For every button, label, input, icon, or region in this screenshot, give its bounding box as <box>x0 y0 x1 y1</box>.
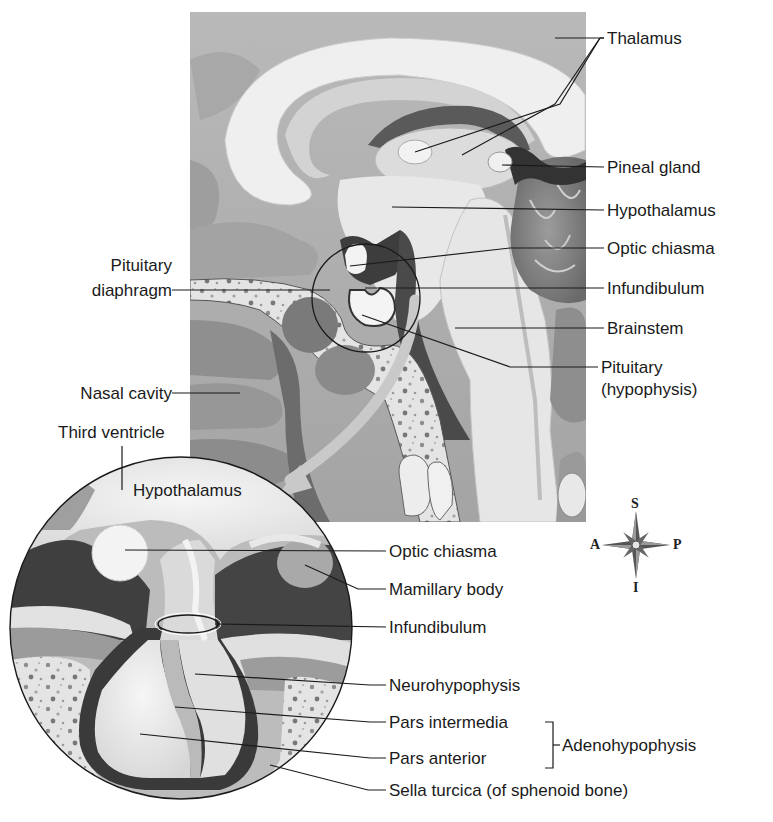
label-pituitary-hypophysis: (hypophysis) <box>601 380 697 399</box>
label-inset-hypothalamus: Hypothalamus <box>133 481 242 500</box>
label-inset-optic-chiasma: Optic chiasma <box>389 542 497 561</box>
compass-superior: S <box>631 496 639 512</box>
anatomy-illustration <box>0 0 773 822</box>
label-pituitary-diaphragm-line2: diaphragm <box>92 281 172 300</box>
sagittal-brain-panel <box>190 12 586 522</box>
label-pituitary-diaphragm-line1: Pituitary <box>111 256 172 275</box>
label-pars-intermedia: Pars intermedia <box>389 713 508 732</box>
label-mamillary-body: Mamillary body <box>389 580 503 599</box>
compass-posterior: P <box>673 537 682 553</box>
label-thalamus: Thalamus <box>607 29 682 48</box>
label-inset-infundibulum: Infundibulum <box>389 618 486 637</box>
label-infundibulum: Infundibulum <box>607 279 704 298</box>
label-pituitary: Pituitary <box>601 358 662 377</box>
compass-rose-icon <box>602 511 670 579</box>
compass-anterior: A <box>590 537 600 553</box>
label-optic-chiasma: Optic chiasma <box>607 239 715 258</box>
label-pineal-gland: Pineal gland <box>607 158 701 177</box>
label-sella-turcica: Sella turcica (of sphenoid bone) <box>389 781 628 800</box>
label-pars-anterior: Pars anterior <box>389 749 486 768</box>
label-third-ventricle: Third ventricle <box>58 423 165 442</box>
label-hypothalamus: Hypothalamus <box>607 201 716 220</box>
label-nasal-cavity: Nasal cavity <box>80 384 172 403</box>
label-neurohypophysis: Neurohypophysis <box>389 676 520 695</box>
label-brainstem: Brainstem <box>607 319 684 338</box>
compass-inferior: I <box>633 580 638 596</box>
label-adenohypophysis: Adenohypophysis <box>562 736 696 755</box>
